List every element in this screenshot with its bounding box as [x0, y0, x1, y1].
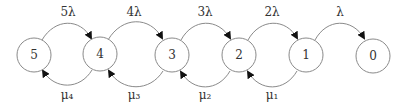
label-2-to-1: 2λ	[264, 5, 280, 19]
svg-text:0: 0	[369, 49, 377, 63]
label-2-to-3: μ₂	[199, 88, 212, 102]
edge-4-to-5	[43, 70, 92, 85]
label-1-to-2: μ₁	[266, 88, 279, 102]
label-3-to-4: μ₃	[128, 88, 141, 102]
node-3: 3	[155, 38, 189, 72]
label-4-to-5: μ₄	[61, 88, 74, 102]
svg-text:2: 2	[235, 48, 243, 62]
edge-1-to-2	[248, 71, 297, 87]
label-3-to-2: 3λ	[197, 5, 213, 19]
node-5: 5	[17, 38, 51, 72]
edge-2-to-3	[181, 71, 230, 87]
label-4-to-3: 4λ	[126, 5, 142, 19]
edge-4-to-3	[108, 22, 162, 40]
svg-text:3: 3	[168, 48, 176, 62]
svg-text:5: 5	[30, 48, 38, 62]
edge-3-to-2	[181, 23, 230, 40]
markov-chain-diagram: 5 4 3 2 1 0 5λ 4λ 3λ 2λ λ μ₄ μ₃ μ₂ μ₁	[0, 0, 407, 108]
svg-text:4: 4	[96, 47, 104, 61]
label-5-to-4: 5λ	[60, 5, 76, 19]
edge-3-to-4	[109, 71, 163, 87]
svg-text:1: 1	[302, 48, 310, 62]
node-1: 1	[289, 38, 323, 72]
edge-2-to-1	[248, 23, 297, 40]
node-4: 4	[83, 37, 117, 71]
node-2: 2	[222, 38, 256, 72]
node-0: 0	[356, 39, 390, 73]
label-1-to-0: λ	[336, 5, 344, 19]
edge-1-to-0	[315, 23, 364, 40]
edge-5-to-4	[42, 23, 91, 40]
